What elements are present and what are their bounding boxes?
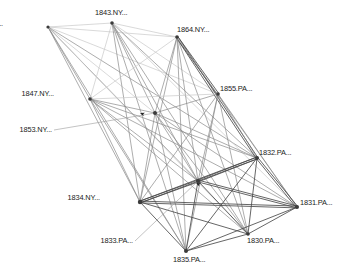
node-label-1832-pa: 1832.PA...: [259, 149, 291, 157]
graph-edge: [48, 27, 155, 113]
graph-node-1848-oh[interactable]: [46, 25, 49, 28]
node-label-1847-ny: 1847.NY...: [22, 90, 54, 98]
graph-node-1833-pa[interactable]: [196, 179, 200, 183]
node-label-1843-ny: 1843.NY...: [95, 9, 127, 17]
graph-node-1864-ny[interactable]: [175, 35, 179, 39]
graph-edge: [112, 23, 177, 37]
graph-edge: [140, 202, 186, 251]
node-label-1835-pa: 1835.PA...: [173, 256, 205, 264]
node-label-1830-pa: 1830.PA...: [247, 237, 279, 245]
node-label-1848-oh: 1848.OH...: [0, 20, 3, 28]
graph-edge: [186, 94, 218, 251]
graph-edge: [140, 37, 177, 202]
node-label-1853-ny: 1853.NY...: [20, 126, 52, 134]
graph-node-1843-ny[interactable]: [110, 21, 114, 25]
graph-edge: [48, 27, 177, 37]
graph-canvas: [0, 0, 342, 278]
graph-node-1847-ny[interactable]: [88, 97, 92, 101]
node-label-1864-ny: 1864.NY...: [177, 26, 209, 34]
node-label-1831-pa: 1831.PA...: [300, 199, 332, 207]
node-label-1834-ny: 1834.NY...: [68, 194, 100, 202]
graph-edge: [90, 99, 198, 181]
graph-edge: [198, 180, 297, 206]
graph-node-1835-pa[interactable]: [184, 249, 188, 253]
graph-edge: [155, 113, 248, 234]
graph-edge: [218, 94, 257, 158]
graph-edge: [186, 234, 248, 251]
graph-node-1834-ny[interactable]: [138, 200, 142, 204]
graph-edge: [90, 99, 257, 158]
graph-node-1831-pa[interactable]: [295, 205, 299, 209]
graph-edge: [90, 23, 112, 99]
graph-node-1853-ny[interactable]: [153, 111, 157, 115]
graph-edge: [155, 37, 177, 113]
graph-edge: [248, 207, 297, 234]
edges-layer: [48, 23, 298, 251]
network-graph-figure: 1848.OH...1843.NY...1864.NY...1847.NY...…: [0, 0, 342, 278]
node-label-1833-pa: 1833.PA...: [101, 237, 133, 245]
graph-edge: [48, 27, 186, 251]
graph-edge: [48, 23, 112, 27]
node-label-1855-pa: 1855.PA...: [220, 85, 252, 93]
